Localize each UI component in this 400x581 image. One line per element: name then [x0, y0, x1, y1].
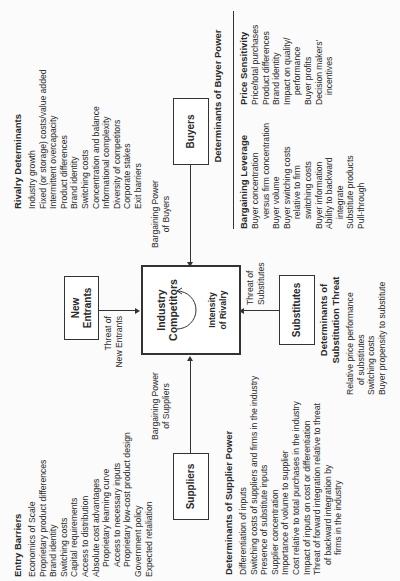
list-item: Industry growth [27, 70, 38, 209]
list-item: Buyer propensity to substitute [377, 245, 388, 395]
five-forces-diagram: Rivalry Determinants Industry growth Fix… [0, 0, 400, 581]
list-item: Economics of Scale [27, 432, 38, 577]
list-item: Presence of substitute inputs [259, 376, 270, 575]
arrow-head-up-icon [239, 308, 244, 314]
suppliers-box: Suppliers [173, 453, 209, 520]
supplier-power: Determinants of Supplier Power Different… [223, 376, 344, 575]
arrow-head-right-icon [187, 356, 193, 361]
list-item: switching costs [303, 123, 314, 229]
rivalry-cycle-arrow-icon [173, 285, 207, 335]
bargaining-power-suppliers-label: Bargaining Power of Suppliers [150, 361, 171, 451]
list-item: Access to distribution [80, 432, 91, 577]
entry-barriers-list: Economics of Scale Proprietary product d… [27, 432, 154, 577]
list-item: Exit barriers [133, 70, 144, 209]
list-item: Proprietary learning curve [101, 432, 112, 577]
threat-substitutes-label: Threat of Substitutes [245, 235, 266, 305]
list-item: incentives [324, 25, 335, 105]
list-item: Buyer profits [303, 25, 314, 105]
list-item: Importance of volume to supplier [280, 376, 291, 575]
threat-new-entrants-label: Threat of New Entrants [103, 316, 124, 396]
list-item: Switching costs of suppliers and firms i… [249, 376, 260, 575]
list-item: Access to necessary inputs [112, 432, 123, 577]
list-item: Buyer switching costs [282, 123, 293, 229]
list-item: Buyer concentration [250, 123, 261, 229]
list-item: integrate [335, 123, 346, 229]
list-item: of backward integration by [323, 376, 334, 575]
substitutes-arrow-line [244, 310, 279, 311]
substitutes-label: Substitutes [291, 283, 303, 337]
list-item: versus firm concentration [261, 123, 272, 229]
arrow-head-down-icon [135, 308, 140, 314]
supplier-power-heading: Determinants of Supplier Power [223, 376, 235, 575]
list-item: Switching costs [80, 70, 91, 209]
list-item: relative to firm [292, 123, 303, 229]
list-item: Product differences [59, 70, 70, 209]
list-item: Brand identity [48, 432, 59, 577]
rivalry-determinants-heading: Rivalry Determinants [12, 70, 24, 209]
new-entrants-label-line1: New [70, 288, 82, 329]
supplier-power-list: Differentiation of inputs Switching cost… [238, 376, 344, 575]
list-item: Ability to backward [324, 123, 335, 229]
new-entrants-label-line2: Entrants [82, 288, 94, 329]
buyers-box: Buyers [173, 98, 209, 165]
suppliers-arrow-line [190, 360, 191, 454]
list-item: Buyer information [314, 123, 325, 229]
list-item: Informational complexity [101, 70, 112, 209]
bargaining-leverage-heading: Bargaining Leverage [238, 123, 250, 229]
bargaining-power-buyers-label: Bargaining Power of Buyers [150, 169, 171, 259]
list-item: Fixed (or storage) costs/value added [38, 70, 49, 209]
entry-barriers: Entry Barriers Economics of Scale Propri… [12, 432, 154, 577]
list-item: Absolute cost advantages [91, 432, 102, 577]
list-item: Expected retaliation [144, 432, 155, 577]
list-item: Supplier concentration [270, 376, 281, 575]
price-sensitivity-list: Price/total purchases Product difference… [250, 25, 335, 105]
arrow-head-left-icon [187, 262, 193, 267]
price-sensitivity: Price Sensitivity Price/total purchases … [238, 25, 335, 105]
list-item: Differentiation of inputs [238, 376, 249, 575]
price-sensitivity-heading: Price Sensitivity [238, 25, 250, 105]
list-item: Proprietary product differences [38, 432, 49, 577]
bargaining-leverage-list: Buyer concentration versus firm concentr… [250, 123, 367, 229]
list-item: Brand identity [69, 70, 80, 209]
list-item: Substitute products [345, 123, 356, 229]
page: Rivalry Determinants Industry growth Fix… [0, 0, 400, 581]
list-item: Switching costs [59, 432, 70, 577]
list-item: Threat of forward integration relative t… [312, 376, 323, 575]
list-item: Decision makers' [314, 25, 325, 105]
new-entrants-arrow-line [98, 310, 136, 311]
substitution-threat-list: Relative price performance of substitute… [345, 245, 387, 395]
list-item: Impact of inputs on cost or differentiat… [302, 376, 313, 575]
list-item: Switching costs [366, 245, 377, 395]
substitution-threat: Determinants of Substitution Threat Rela… [318, 245, 387, 395]
list-item: Impact on quality/ [282, 25, 293, 105]
suppliers-label: Suppliers [185, 464, 197, 510]
intensity-of-rivalry-label: Intensity of Rivalry [207, 267, 228, 353]
list-item: Buyer volume [271, 123, 282, 229]
list-item: Government policy [133, 432, 144, 577]
bargaining-leverage: Bargaining Leverage Buyer concentration … [238, 123, 367, 229]
list-item: Diversity of competitors [112, 70, 123, 209]
rivalry-determinants-list: Industry growth Fixed (or storage) costs… [27, 70, 144, 209]
substitutes-box: Substitutes [279, 275, 315, 345]
buyer-power-divider [233, 11, 234, 229]
buyers-label: Buyers [185, 115, 197, 149]
list-item: Intermittent overcapacity [48, 70, 59, 209]
buyer-power-heading: Determinants of Buyer Power [212, 11, 224, 181]
new-entrants-box: New Entrants [64, 276, 99, 340]
list-item: Brand identity [271, 25, 282, 105]
entry-barriers-heading: Entry Barriers [12, 432, 24, 577]
list-item: Concentration and balance [91, 70, 102, 209]
list-item: Price/total purchases [250, 25, 261, 105]
list-item: Proprietary low-cost product design [122, 432, 133, 577]
list-item: Relative price performance [345, 245, 356, 395]
list-item: Cost relative to total purchases in the … [291, 376, 302, 575]
rivalry-determinants: Rivalry Determinants Industry growth Fix… [12, 70, 144, 209]
list-item: Corporate stakes [122, 70, 133, 209]
list-item: Pull-through [356, 123, 367, 229]
list-item: firms in the industry [333, 376, 344, 575]
list-item: Product differences [261, 25, 272, 105]
list-item: Capital requirements [69, 432, 80, 577]
substitution-threat-heading: Determinants of Substitution Threat [318, 245, 342, 395]
buyers-arrow-line [190, 165, 191, 262]
list-item: performance [292, 25, 303, 105]
